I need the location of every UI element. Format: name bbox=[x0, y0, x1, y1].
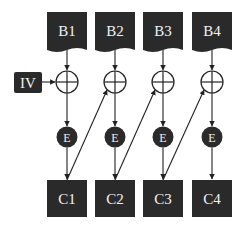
xor-icon bbox=[104, 71, 126, 93]
xor-nodes bbox=[56, 71, 223, 93]
encrypt-label: E bbox=[208, 131, 215, 145]
encrypt-node-2: E bbox=[105, 127, 126, 148]
ciphertext-label: C1 bbox=[58, 191, 76, 207]
encrypt-label: E bbox=[63, 131, 70, 145]
cbc-diagram: B1 B2 B3 B4 IV bbox=[0, 0, 245, 230]
encrypt-node-3: E bbox=[153, 127, 174, 148]
ciphertext-block-c1: C1 bbox=[47, 180, 87, 217]
encrypt-label: E bbox=[159, 131, 166, 145]
plaintext-block-b4: B4 bbox=[192, 12, 232, 52]
ciphertext-block-c4: C4 bbox=[192, 180, 232, 217]
plaintext-label: B1 bbox=[58, 23, 76, 39]
edges-encrypt-to-ciphertext bbox=[67, 148, 212, 180]
iv-label: IV bbox=[20, 75, 36, 91]
plaintext-block-b1: B1 bbox=[47, 12, 87, 52]
ciphertext-label: C2 bbox=[106, 191, 124, 207]
ciphertext-block-c3: C3 bbox=[143, 180, 183, 217]
ciphertext-block-c2: C2 bbox=[95, 180, 135, 217]
plaintext-block-b2: B2 bbox=[95, 12, 135, 52]
iv-block: IV bbox=[14, 72, 42, 93]
plaintext-label: B2 bbox=[106, 23, 124, 39]
plaintext-block-b3: B3 bbox=[143, 12, 183, 52]
encrypt-node-1: E bbox=[57, 127, 78, 148]
xor-icon bbox=[56, 71, 78, 93]
edges-feedback bbox=[67, 90, 204, 180]
xor-icon bbox=[152, 71, 174, 93]
plaintext-label: B4 bbox=[203, 23, 221, 39]
ciphertext-label: C3 bbox=[154, 191, 172, 207]
encrypt-label: E bbox=[111, 131, 118, 145]
ciphertext-label: C4 bbox=[203, 191, 221, 207]
plaintext-label: B3 bbox=[154, 23, 172, 39]
encrypt-node-4: E bbox=[202, 127, 223, 148]
xor-icon bbox=[201, 71, 223, 93]
